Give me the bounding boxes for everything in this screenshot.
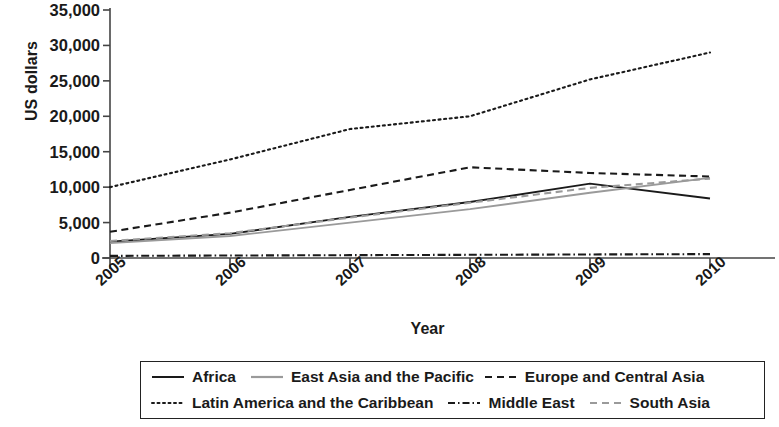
legend-label: East Asia and the Pacific <box>291 369 474 385</box>
line-chart: US dollars 05,00010,00015,00020,00025,00… <box>0 0 779 427</box>
legend-line-solid-gray-icon <box>250 370 284 384</box>
legend-label: Middle East <box>488 395 574 411</box>
legend-line-solid-black-icon <box>151 370 185 384</box>
legend-item-europe-and-central-asia: Europe and Central Asia <box>474 369 704 385</box>
legend-label: Europe and Central Asia <box>525 369 704 385</box>
legend-label: South Asia <box>630 395 710 411</box>
legend-line-dashed-black-icon <box>484 370 518 384</box>
legend-row-2: Latin America and the Caribbean Middle E… <box>141 390 764 416</box>
legend-item-latin-america-and-the-caribbean: Latin America and the Caribbean <box>141 395 433 411</box>
x-axis-title: Year <box>0 320 779 338</box>
legend-line-dotted-black-icon <box>151 396 185 410</box>
legend-line-dashed-gray-icon <box>589 396 623 410</box>
series-line <box>110 254 710 256</box>
legend-item-middle-east: Middle East <box>437 395 574 411</box>
chart-legend: Africa East Asia and the Pacific Europe … <box>140 361 765 419</box>
legend-label: Latin America and the Caribbean <box>192 395 433 411</box>
series-line <box>110 167 710 231</box>
series-line <box>110 184 710 242</box>
legend-row-1: Africa East Asia and the Pacific Europe … <box>141 364 764 390</box>
legend-label: Africa <box>192 369 236 385</box>
plot-area <box>0 0 779 340</box>
legend-item-africa: Africa <box>141 369 236 385</box>
legend-item-south-asia: South Asia <box>579 395 710 411</box>
legend-item-east-asia-and-the-pacific: East Asia and the Pacific <box>240 369 474 385</box>
legend-line-dashdot-black-icon <box>447 396 481 410</box>
series-line <box>110 53 710 188</box>
